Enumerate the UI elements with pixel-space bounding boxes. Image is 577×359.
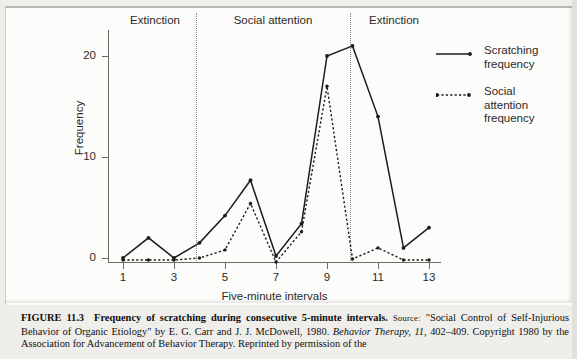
legend-label-scratching-line1: Scratching xyxy=(484,44,566,58)
legend-line-solid-icon xyxy=(436,49,474,59)
caption-title: Frequency of scratching during consecuti… xyxy=(94,312,388,323)
caption-journal: Behavior Therapy, 11 xyxy=(333,326,424,337)
caption-source-1: "Social Control of xyxy=(426,312,507,323)
caption-source-label: Source: xyxy=(393,314,421,323)
legend-item-social-attention: Social attention frequency xyxy=(436,85,566,126)
legend-line-dotted-icon xyxy=(436,90,474,100)
legend-label-social-line1: Social xyxy=(484,85,566,99)
figure-caption: FIGURE 11.3 Frequency of scratching duri… xyxy=(21,312,569,351)
legend-label-social-line3: frequency xyxy=(484,112,566,126)
caption-source-3: , 402–409. xyxy=(424,326,469,337)
chart-legend: Scratching frequency Social attention fr… xyxy=(436,44,566,140)
legend-item-scratching: Scratching frequency xyxy=(436,44,566,71)
page-edge-bleed xyxy=(572,0,577,359)
legend-label-social-line2: attention xyxy=(484,99,566,113)
caption-number: FIGURE 11.3 xyxy=(21,312,84,323)
legend-label-scratching-line2: frequency xyxy=(484,58,566,72)
